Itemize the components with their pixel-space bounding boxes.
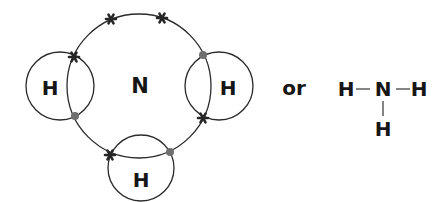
formula-hydrogen-right: H [411, 77, 428, 101]
hydrogen-right-symbol: H [220, 76, 237, 100]
cross-electron-icon [198, 114, 208, 123]
formula-hydrogen-bottom: H [375, 117, 392, 141]
dot-electron-icon [199, 51, 207, 59]
cross-electron-icon [106, 15, 116, 24]
formula-hydrogen-left: H [338, 77, 355, 101]
nitrogen-symbol: N [131, 74, 149, 98]
hydrogen-bottom-symbol: H [133, 168, 150, 192]
atom-symbols: N H H H [42, 74, 237, 192]
or-label: or [282, 76, 306, 100]
cross-electron-icon [157, 14, 167, 23]
dot-electron-icon [166, 148, 174, 156]
ammonia-diagram: N H H H [0, 0, 443, 202]
hydrogen-left-shell [26, 52, 94, 120]
formula-nitrogen: N [375, 77, 392, 101]
hydrogen-left-symbol: H [42, 76, 59, 100]
dot-electron-icon [71, 112, 79, 120]
structural-formula: H N H H [338, 77, 428, 141]
